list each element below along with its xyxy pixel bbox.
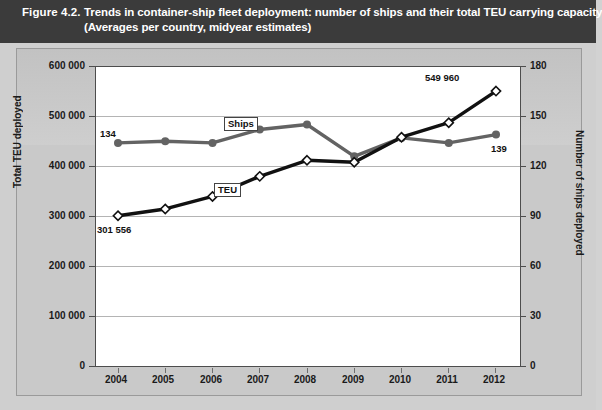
x-tickmark-2006	[212, 368, 213, 373]
left-tick-label-300000: 300 000	[17, 210, 85, 221]
left-tick-label-600000: 600 000	[17, 60, 85, 71]
series-canvas	[95, 66, 519, 367]
teu-first-value-label: 301 556	[97, 224, 131, 235]
x-tickmark-2007	[259, 368, 260, 373]
x-tickmark-2011	[448, 368, 449, 373]
ships-marker	[161, 137, 169, 145]
teu-marker	[113, 211, 122, 220]
x-tick-label-2006: 2006	[188, 374, 234, 385]
figure-header: Figure 4.2. Trends in container-ship fle…	[0, 0, 596, 43]
x-tick-label-2009: 2009	[330, 374, 376, 385]
ships-marker	[209, 139, 217, 147]
x-tickmark-2012	[495, 368, 496, 373]
ships-last-value-label: 139	[491, 143, 507, 154]
right-tickmark-180	[520, 66, 526, 67]
teu-last-value-label: 549 960	[425, 72, 459, 83]
left-axis-title: Total TEU deployed	[9, 62, 25, 222]
right-tick-label-90: 90	[530, 210, 568, 221]
right-tick-label-150: 150	[530, 110, 568, 121]
right-tickmark-0	[520, 366, 526, 367]
left-tick-label-400000: 400 000	[17, 160, 85, 171]
figure-number: Figure 4.2.	[22, 6, 81, 18]
ships-series-label: Ships	[224, 117, 258, 131]
right-tickmark-30	[520, 316, 526, 317]
right-tickmark-120	[520, 166, 526, 167]
x-tick-label-2011: 2011	[424, 374, 470, 385]
teu-series-label: TEU	[214, 183, 241, 197]
ships-marker	[114, 139, 122, 147]
right-tick-label-120: 120	[530, 160, 568, 171]
right-axis-title: Number of ships deployed	[571, 105, 587, 280]
x-tickmark-2005	[165, 368, 166, 373]
ships-line	[118, 125, 496, 157]
left-tick-label-100000: 100 000	[17, 310, 85, 321]
right-tickmark-60	[520, 266, 526, 267]
x-tick-label-2005: 2005	[140, 374, 186, 385]
x-tick-label-2010: 2010	[377, 374, 423, 385]
x-tick-label-2008: 2008	[282, 374, 328, 385]
x-tickmark-2010	[401, 368, 402, 373]
right-tick-label-180: 180	[530, 60, 568, 71]
figure-title-line1: Trends in container-ship fleet deploymen…	[84, 6, 602, 18]
right-tick-label-0: 0	[530, 360, 568, 371]
ships-marker	[303, 121, 311, 129]
x-tickmark-2008	[307, 368, 308, 373]
ships-marker	[445, 139, 453, 147]
left-tick-label-500000: 500 000	[17, 110, 85, 121]
figure-title-line2: (Averages per country, midyear estimates…	[84, 21, 311, 33]
right-tickmark-90	[520, 216, 526, 217]
left-tick-label-0: 0	[17, 360, 85, 371]
teu-markers	[113, 87, 500, 221]
x-tick-label-2012: 2012	[471, 374, 517, 385]
teu-marker	[161, 204, 170, 213]
x-tick-label-2004: 2004	[93, 374, 139, 385]
teu-marker	[255, 172, 264, 181]
right-tick-label-60: 60	[530, 260, 568, 271]
right-tick-label-30: 30	[530, 310, 568, 321]
left-tick-label-200000: 200 000	[17, 260, 85, 271]
right-tickmark-150	[520, 116, 526, 117]
teu-marker	[302, 156, 311, 165]
x-tickmark-2004	[118, 368, 119, 373]
x-tickmark-2009	[354, 368, 355, 373]
teu-line	[118, 91, 496, 216]
ships-marker	[492, 131, 500, 139]
x-tick-label-2007: 2007	[235, 374, 281, 385]
ships-first-value-label: 134	[100, 128, 116, 139]
